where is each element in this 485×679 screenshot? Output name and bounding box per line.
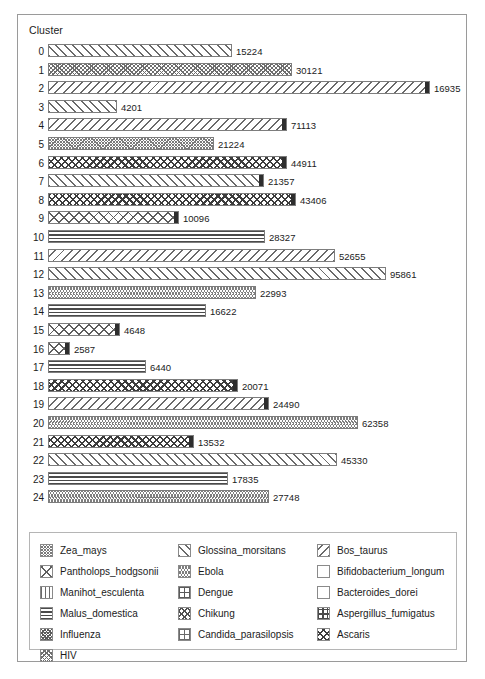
bar[interactable] [48,472,228,485]
bar-category-label: 0 [18,46,44,57]
legend-swatch-icon [40,607,53,620]
bar[interactable] [48,342,70,355]
legend-swatch-icon [317,607,330,620]
bar-end-cap [65,343,69,354]
bar[interactable] [48,100,117,113]
bar[interactable] [48,304,206,317]
legend-label: Candida_parasilopsis [198,629,294,640]
bar-category-label: 24 [18,492,44,503]
bar-row: 1322993 [18,285,468,303]
legend-label: Bacteroides_dorei [337,587,418,598]
bar-value-label: 4201 [121,102,142,113]
legend-item[interactable]: Manihot_esculenta [40,582,158,603]
bar-category-label: 21 [18,437,44,448]
legend-item[interactable]: Ascaris [317,624,444,645]
bar[interactable] [48,230,265,243]
bar[interactable] [48,44,232,57]
bar-value-label: 27748 [273,492,299,503]
bar-row: 843406 [18,192,468,210]
bar[interactable] [48,416,358,429]
legend-swatch-icon [317,544,330,557]
legend-column: Bos_taurusBifidobacterium_longumBacteroi… [317,540,444,645]
bar[interactable] [48,211,179,224]
bar-end-cap [233,380,237,391]
bar-row: 2245330 [18,452,468,470]
bar[interactable] [48,137,214,150]
bar-row: 34201 [18,99,468,117]
legend-item[interactable]: Malus_domestica [40,603,158,624]
legend-item[interactable]: Aspergillus_fumigatus [317,603,444,624]
legend-item[interactable]: Candida_parasilopsis [178,624,294,645]
legend-label: Ascaris [337,629,370,640]
bar-end-cap [189,436,193,447]
bar[interactable] [48,435,194,448]
bar[interactable] [48,453,337,466]
bar-row: 1924490 [18,396,468,414]
bar-row: 1152655 [18,248,468,266]
bar-row: 176440 [18,359,468,377]
bar-row: 1028327 [18,229,468,247]
bar[interactable] [48,360,146,373]
bar-value-label: 16935 [434,83,460,94]
bar-category-label: 6 [18,158,44,169]
legend-swatch-icon [178,586,191,599]
bar-value-label: 2587 [74,344,95,355]
legend-swatch-icon [40,565,53,578]
legend-label: Aspergillus_fumigatus [337,608,435,619]
legend-label: Glossina_morsitans [198,545,286,556]
legend-label: Ebola [198,566,224,577]
bar-row: 2317835 [18,471,468,489]
chart-legend: Zea_maysPantholops_hodgsoniiManihot_escu… [29,532,457,650]
chart-frame: Cluster 01522413012121693534201471113521… [17,14,467,662]
legend-swatch-icon [178,565,191,578]
bar[interactable] [48,174,264,187]
bar[interactable] [48,379,238,392]
bar-category-label: 9 [18,213,44,224]
bar-category-label: 10 [18,232,44,243]
legend-item[interactable]: Ebola [178,561,294,582]
legend-swatch-icon [40,586,53,599]
bar[interactable] [48,267,386,280]
bar[interactable] [48,118,287,131]
bar-end-cap [282,119,286,130]
legend-item[interactable]: HIV [40,645,158,666]
bar-value-label: 10096 [183,213,209,224]
bar[interactable] [48,63,292,76]
legend-item[interactable]: Influenza [40,624,158,645]
bar-category-label: 7 [18,176,44,187]
bar-row: 2427748 [18,489,468,507]
legend-item[interactable]: Dengue [178,582,294,603]
bar[interactable] [48,323,120,336]
bar[interactable] [48,81,430,94]
bar-value-label: 15224 [236,46,262,57]
bar-end-cap [264,398,268,409]
legend-item[interactable]: Pantholops_hodgsonii [40,561,158,582]
bar-row: 644911 [18,155,468,173]
bar[interactable] [48,286,256,299]
bar-value-label: 71113 [291,120,316,131]
legend-item[interactable]: Bacteroides_dorei [317,582,444,603]
bar-row: 154648 [18,322,468,340]
bar[interactable] [48,249,335,262]
legend-item[interactable]: Chikung [178,603,294,624]
bar-value-label: 13532 [198,437,224,448]
bar-category-label: 13 [18,288,44,299]
bar-category-label: 19 [18,399,44,410]
bar-category-label: 2 [18,83,44,94]
bar-value-label: 21357 [268,176,294,187]
bar-value-label: 24490 [273,399,299,410]
legend-label: Manihot_esculenta [60,587,144,598]
legend-label: Dengue [198,587,233,598]
legend-label: Bifidobacterium_longum [337,566,444,577]
legend-item[interactable]: Bifidobacterium_longum [317,561,444,582]
bar-value-label: 45330 [341,455,367,466]
bar[interactable] [48,490,269,503]
bar-value-label: 95861 [390,269,416,280]
bar-category-label: 15 [18,325,44,336]
legend-item[interactable]: Glossina_morsitans [178,540,294,561]
legend-item[interactable]: Bos_taurus [317,540,444,561]
bar[interactable] [48,156,287,169]
legend-item[interactable]: Zea_mays [40,540,158,561]
bar[interactable] [48,193,296,206]
bar[interactable] [48,397,269,410]
